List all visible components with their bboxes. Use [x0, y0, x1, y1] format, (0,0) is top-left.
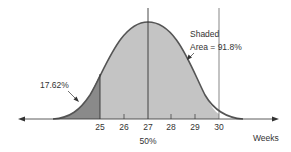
left-tail-pointer [68, 91, 76, 99]
normal-distribution-chart: 25 26 27 28 29 30 50% Weeks 17.62% Shade… [0, 0, 291, 152]
shaded-label-line2: Area = 91.8% [190, 42, 242, 52]
tick-label-25: 25 [95, 122, 105, 132]
x-axis-label: Weeks [253, 133, 279, 143]
tick-label-29: 29 [190, 122, 200, 132]
tick-label-30: 30 [214, 122, 224, 132]
shaded-label-line1: Shaded [190, 29, 220, 39]
left-arrow-icon [18, 117, 25, 122]
mean-percent-label: 50% [139, 136, 156, 146]
left-tail-label: 17.62% [40, 80, 69, 90]
right-arrow-icon [272, 117, 279, 122]
tick-label-27: 27 [143, 122, 153, 132]
tick-label-28: 28 [166, 122, 176, 132]
tick-label-26: 26 [119, 122, 129, 132]
